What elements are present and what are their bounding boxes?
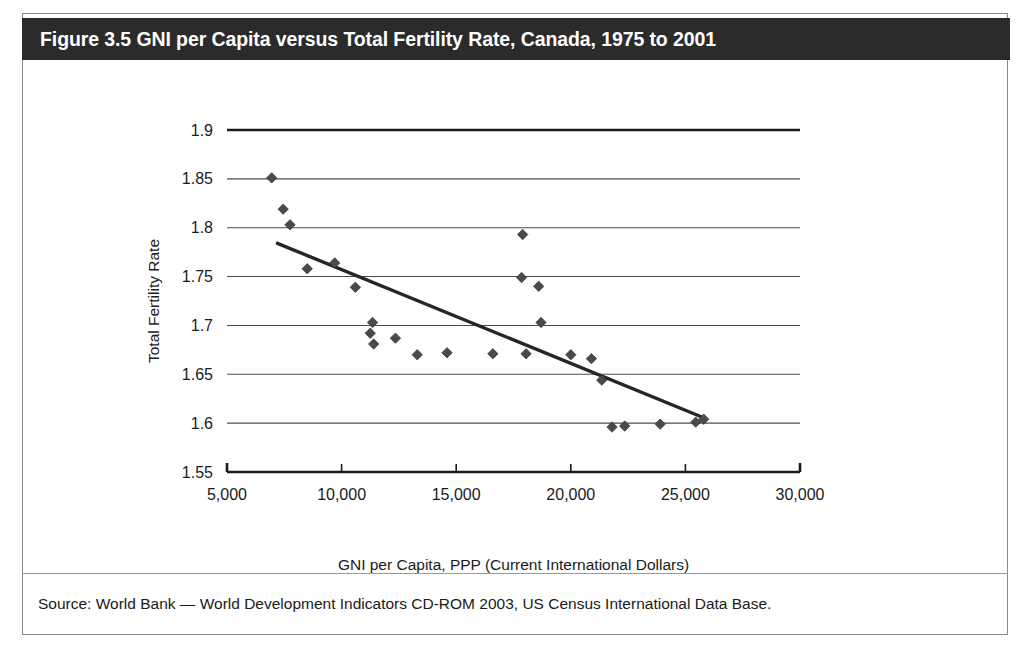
y-tick-label-1-9: 1.9 (191, 122, 213, 139)
y-tick-label-1-55: 1.55 (182, 464, 213, 481)
data-point-0-9 (390, 333, 400, 343)
x-tick-label-30000: 30,000 (776, 486, 825, 503)
data-point-0-22 (619, 421, 629, 431)
data-point-0-17 (536, 317, 546, 327)
data-point-0-18 (566, 350, 576, 360)
data-point-0-23 (655, 419, 665, 429)
y-tick-label-1-75: 1.75 (182, 268, 213, 285)
y-tick-label-1-6: 1.6 (191, 415, 213, 432)
y-tick-label-1-7: 1.7 (191, 317, 213, 334)
data-point-0-0 (266, 173, 276, 183)
data-point-0-1 (278, 204, 288, 214)
data-point-0-13 (517, 229, 527, 239)
data-point-0-2 (285, 220, 295, 230)
data-point-0-6 (365, 328, 375, 338)
x-tick-label-15000: 15,000 (432, 486, 481, 503)
figure-title-band: Figure 3.5 GNI per Capita versus Total F… (22, 18, 1010, 60)
x-axis-title: GNI per Capita, PPP (Current Internation… (338, 556, 689, 573)
data-point-0-11 (442, 348, 452, 358)
trend-line (277, 243, 704, 418)
scatter-chart: 1.551.61.651.71.751.81.851.95,00010,0001… (22, 60, 1008, 580)
plot-area: 1.551.61.651.71.751.81.851.95,00010,0001… (22, 60, 1008, 635)
data-point-0-10 (412, 350, 422, 360)
data-point-0-12 (488, 349, 498, 359)
data-point-0-7 (367, 317, 377, 327)
x-tick-label-10000: 10,000 (317, 486, 366, 503)
x-tick-label-20000: 20,000 (546, 486, 595, 503)
data-point-0-19 (586, 353, 596, 363)
y-tick-label-1-65: 1.65 (182, 366, 213, 383)
source-divider (22, 573, 1008, 574)
y-tick-label-1-85: 1.85 (182, 170, 213, 187)
x-tick-label-25000: 25,000 (661, 486, 710, 503)
page-title: Figure 3.5 GNI per Capita versus Total F… (40, 28, 716, 51)
y-tick-label-1-8: 1.8 (191, 219, 213, 236)
x-tick-label-5000: 5,000 (207, 486, 247, 503)
data-point-0-8 (368, 339, 378, 349)
figure-root: Figure 3.5 GNI per Capita versus Total F… (0, 0, 1028, 650)
data-point-0-3 (302, 264, 312, 274)
data-point-0-5 (350, 282, 360, 292)
y-axis-title: Total Fertility Rate (145, 239, 162, 363)
data-point-0-15 (521, 349, 531, 359)
source-note: Source: World Bank — World Development I… (38, 595, 771, 613)
data-point-0-16 (534, 281, 544, 291)
data-point-0-14 (516, 272, 526, 282)
